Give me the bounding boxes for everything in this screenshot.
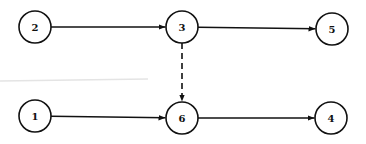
node-5: 5 bbox=[316, 13, 348, 45]
node-1: 1 bbox=[19, 100, 51, 132]
edge-1-to-6-arrow bbox=[51, 116, 166, 118]
node-label: 3 bbox=[179, 22, 186, 33]
node-label: 1 bbox=[32, 111, 39, 122]
node-2: 2 bbox=[19, 11, 51, 43]
network-diagram: 235164 bbox=[0, 0, 366, 144]
node-3: 3 bbox=[166, 11, 198, 43]
node-label: 6 bbox=[179, 113, 186, 124]
node-label: 2 bbox=[32, 22, 39, 33]
node-label: 5 bbox=[329, 24, 336, 35]
node-label: 4 bbox=[328, 113, 335, 124]
node-4: 4 bbox=[315, 102, 347, 134]
nodes-group: 235164 bbox=[19, 11, 348, 134]
scan-artifact-line bbox=[0, 79, 148, 81]
edge-3-to-5-arrow bbox=[198, 27, 316, 29]
node-6: 6 bbox=[166, 102, 198, 134]
